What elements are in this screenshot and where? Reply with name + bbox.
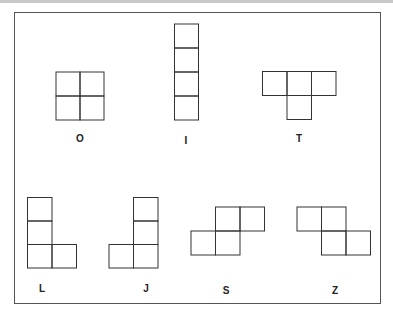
- tetromino-diagram: [0, 0, 393, 319]
- piece-i-shape: [175, 24, 199, 120]
- label-s: S: [223, 285, 230, 296]
- piece-t-shape: [263, 72, 337, 120]
- label-j: J: [143, 283, 149, 294]
- piece-l-shape: [28, 198, 77, 269]
- piece-j-shape: [109, 198, 158, 269]
- label-t: T: [296, 133, 302, 144]
- piece-s-shape: [191, 207, 265, 255]
- label-z: Z: [332, 285, 338, 296]
- label-i: I: [185, 135, 188, 146]
- piece-z-shape: [297, 207, 371, 255]
- piece-o-shape: [56, 72, 104, 120]
- label-l: L: [39, 283, 45, 294]
- label-o: O: [76, 133, 84, 144]
